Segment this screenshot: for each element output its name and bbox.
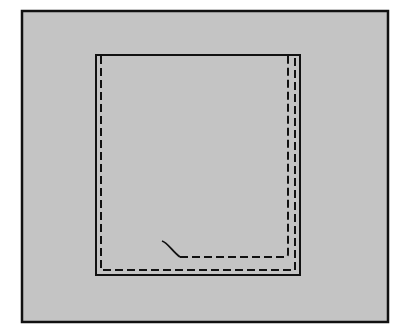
diagram-figure	[0, 0, 395, 336]
inner-square	[96, 55, 300, 275]
